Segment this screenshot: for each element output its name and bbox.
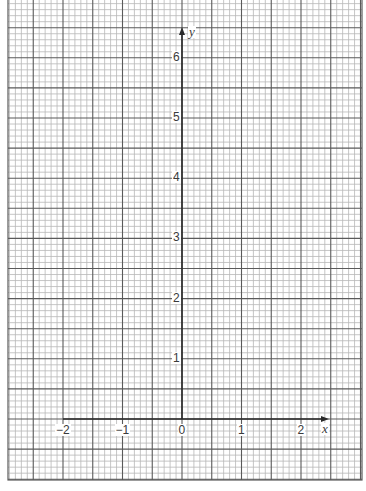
graph-paper <box>0 0 366 491</box>
y-tick-label: 3 <box>172 231 181 243</box>
major-grid-lines <box>8 0 362 480</box>
y-tick-label: 5 <box>172 111 181 123</box>
y-tick-label: 6 <box>172 51 181 63</box>
x-tick-label: 2 <box>297 424 306 436</box>
x-tick-label: 0 <box>178 424 187 436</box>
x-tick-label: 1 <box>237 424 246 436</box>
y-tick-label: 1 <box>172 352 181 364</box>
x-axis-label: x <box>321 423 329 435</box>
grid-border <box>8 0 362 480</box>
minor-grid-lines <box>8 0 362 480</box>
y-axis-label: y <box>188 26 196 38</box>
x-tick-label: −2 <box>55 424 71 436</box>
x-tick-label: −1 <box>115 424 131 436</box>
y-tick-label: 4 <box>172 171 181 183</box>
y-tick-label: 2 <box>172 292 181 304</box>
